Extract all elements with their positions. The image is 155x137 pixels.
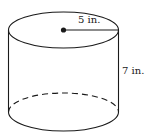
bottom-front-arc [9, 112, 119, 131]
center-point [61, 27, 66, 32]
height-label: 7 in. [122, 65, 144, 76]
radius-label: 5 in. [78, 14, 100, 25]
bottom-hidden-arc [9, 93, 119, 112]
cylinder-diagram: 5 in. 7 in. [0, 0, 155, 137]
